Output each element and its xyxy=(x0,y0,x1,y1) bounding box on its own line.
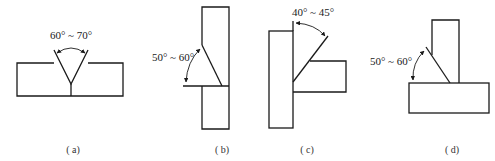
bevel-line xyxy=(202,45,222,86)
caption-d: ( d) xyxy=(445,144,459,156)
horizontal-plate xyxy=(293,61,346,92)
figure-a: 60° ~ 70° ( a) xyxy=(17,29,123,156)
angle-label-c: 40° ~ 45° xyxy=(292,6,334,18)
caption-c: ( c) xyxy=(300,144,314,156)
figure-c: 40° ~ 45° ( c) xyxy=(269,6,346,156)
caption-a: ( a) xyxy=(66,144,80,156)
figure-d: 50° ~ 60° ( d) xyxy=(370,20,489,156)
plate-bottom xyxy=(202,86,229,129)
vertical-plate xyxy=(269,31,293,128)
angle-arc xyxy=(57,48,85,53)
base-plate xyxy=(409,83,489,113)
bevel-line xyxy=(293,36,328,82)
angle-label-d: 50° ~ 60° xyxy=(370,55,412,67)
angle-arc xyxy=(413,51,424,80)
caption-b: ( b) xyxy=(215,144,229,156)
figure-b: 50° ~ 60° ( b) xyxy=(152,7,229,156)
angle-label-a: 60° ~ 70° xyxy=(50,29,92,41)
weld-groove-diagram: 60° ~ 70° ( a) 50° ~ 60° ( b) 40° ~ 45° … xyxy=(0,0,495,161)
bevel-line xyxy=(426,47,450,83)
vertical-plate xyxy=(432,20,459,83)
v-groove xyxy=(54,50,88,84)
angle-label-b: 50° ~ 60° xyxy=(152,51,194,63)
angle-arc xyxy=(296,23,325,36)
